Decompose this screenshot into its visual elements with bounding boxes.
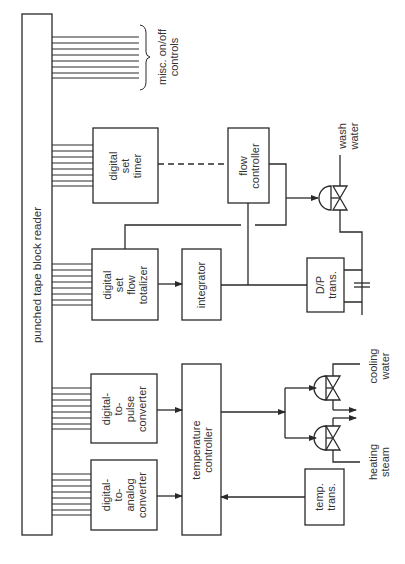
totalizer-label-2: set xyxy=(113,265,125,304)
timer-label-1: digital xyxy=(108,151,120,180)
flow-controller-label-2: controller xyxy=(249,143,261,188)
analog-label-1: digital- xyxy=(100,472,112,518)
temp-trans-label-1: temp. xyxy=(312,483,324,511)
misc-bus-lines xyxy=(52,37,139,78)
wash-valve-actuator-icon xyxy=(319,186,331,210)
integrator-label-box: integrator xyxy=(182,249,221,320)
temp-controller-label-1: temperature xyxy=(190,420,202,479)
misc-label-box: misc. on/off controls xyxy=(150,24,186,90)
timer-bus-lines xyxy=(52,145,93,186)
temp-trans-label-box: temp. trans. xyxy=(305,469,344,525)
analog-converter-label-box: digital- to- analog converter xyxy=(91,460,157,530)
temp-controller-label-2: controller xyxy=(202,420,214,479)
cooling-water-label-2: water xyxy=(379,349,391,384)
totalizer-label-1: digital xyxy=(101,265,113,304)
totalizer-label-4: totalizer xyxy=(137,265,149,304)
wash-water-label-2: water xyxy=(348,123,360,150)
misc-brace-icon xyxy=(140,25,150,90)
dp-trans-label-2: trans. xyxy=(325,271,337,299)
dp-taps xyxy=(344,270,362,302)
temp-controller-label-box: temperature controller xyxy=(182,364,221,535)
analog-label-3: analog xyxy=(124,472,136,518)
pulse-label-2: to- xyxy=(112,386,124,432)
analog-label-2: to- xyxy=(112,472,124,518)
cooling-water-pipe xyxy=(333,364,360,376)
timer-label-3: timer xyxy=(132,151,144,180)
heating-steam-pipe xyxy=(333,450,360,462)
dp-trans-label-1: D/P xyxy=(313,271,325,299)
totalizer-label-3: flow xyxy=(125,265,137,304)
totalizer-label-box: digital set flow totalizer xyxy=(92,249,158,320)
wash-water-label-box: wash water xyxy=(330,118,366,154)
flow-controller-label-1: flow xyxy=(237,143,249,188)
heating-steam-label-2: steam xyxy=(379,444,391,480)
analog-label-4: converter xyxy=(136,472,148,518)
tape-reader-label-box: punched tape block reader xyxy=(22,14,52,535)
pulse-bus-lines xyxy=(52,388,91,429)
pulse-label-1: digital- xyxy=(100,386,112,432)
heating-steam-label-box: heating steam xyxy=(362,442,396,482)
dp-signal-line xyxy=(221,203,307,285)
misc-label-line1: misc. on/off xyxy=(156,29,168,85)
wash-water-label-1: wash xyxy=(336,123,348,150)
timer-label-box: digital set timer xyxy=(93,128,158,203)
pulse-label-3: pulse xyxy=(124,386,136,432)
dp-trans-label-box: D/P trans. xyxy=(307,258,344,312)
cooling-water-label-1: cooling xyxy=(367,349,379,384)
heating-steam-label-1: heating xyxy=(367,444,379,480)
integrator-label: integrator xyxy=(196,261,208,307)
pulse-converter-label-box: digital- to- pulse converter xyxy=(91,374,157,443)
analog-bus-lines xyxy=(52,474,91,515)
misc-label-line2: controls xyxy=(168,29,180,85)
timer-label-2: set xyxy=(120,151,132,180)
flow-controller-label-box: flow controller xyxy=(228,128,269,203)
pulse-label-4: converter xyxy=(136,386,148,432)
cooling-water-label-box: cooling water xyxy=(362,346,396,386)
temp-trans-label-2: trans. xyxy=(324,483,336,511)
tape-reader-label: punched tape block reader xyxy=(31,206,43,342)
totalizer-bus-lines xyxy=(52,264,92,305)
